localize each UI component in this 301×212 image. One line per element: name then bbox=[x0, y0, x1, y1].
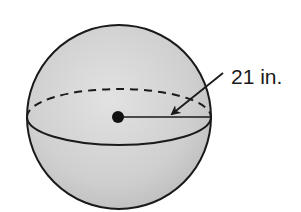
radius-label: 21 in. bbox=[231, 65, 282, 88]
center-point bbox=[112, 111, 124, 123]
sphere-diagram: 21 in. bbox=[0, 0, 301, 212]
